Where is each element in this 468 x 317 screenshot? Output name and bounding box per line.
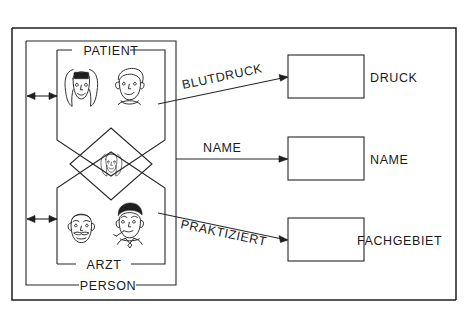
diagram-svg: PATIENT ARZT PERSON DRUCK NAME FACHGEBIE… (0, 0, 468, 317)
relationship-label-praktiziert: PRAKTIZIERT (179, 217, 268, 249)
boy-face-icon (115, 68, 144, 104)
person-entity-label: PERSON (80, 279, 136, 293)
relationship-label-name: NAME (203, 141, 242, 155)
relationship-line-name (176, 156, 288, 162)
man-with-tie-face-icon (114, 203, 144, 248)
attribute-label-druck: DRUCK (370, 71, 418, 85)
older-man-face-icon (68, 214, 94, 243)
arzt-entity-label: ARZT (86, 258, 121, 272)
er-diagram-canvas: PATIENT ARZT PERSON DRUCK NAME FACHGEBIE… (0, 0, 468, 317)
attribute-box-name (288, 137, 364, 180)
attribute-label-name: NAME (370, 153, 409, 167)
patient-entity-label: PATIENT (83, 44, 138, 58)
patient-left-connector (27, 93, 57, 100)
woman-face-icon (65, 70, 98, 107)
patient-entity-shape (57, 50, 165, 176)
relationship-label-blutdruck: BLUTDRUCK (181, 61, 264, 91)
attribute-label-fachgebiet: FACHGEBIET (357, 234, 442, 248)
attribute-box-fachgebiet (288, 218, 364, 261)
arzt-left-connector (27, 216, 57, 223)
attribute-box-druck (288, 55, 364, 98)
